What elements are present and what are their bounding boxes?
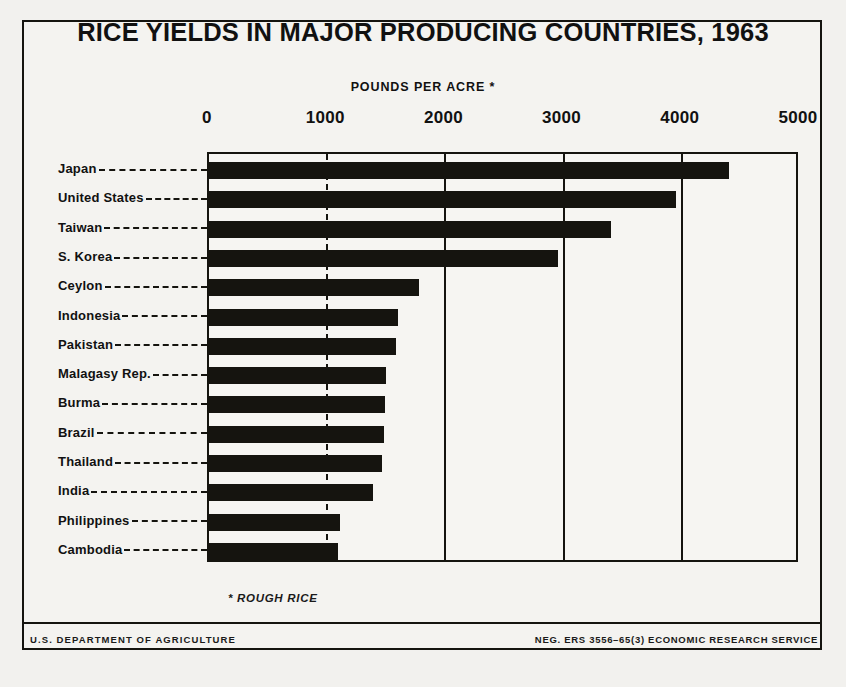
bar-indonesia [209, 309, 398, 326]
category-label-indonesia: Indonesia [58, 307, 207, 324]
bar-brazil [209, 426, 384, 443]
leader-dashes [91, 491, 207, 493]
category-name: Ceylon [58, 277, 103, 294]
units-caption: POUNDS PER ACRE * [0, 80, 846, 94]
footer-agency: U.S. DEPARTMENT OF AGRICULTURE [30, 634, 236, 645]
leader-dashes [115, 344, 207, 346]
bar-ceylon [209, 279, 419, 296]
category-label-india: India [58, 482, 207, 499]
x-tick-label-1000: 1000 [306, 108, 345, 128]
category-label-s-korea: S. Korea [58, 248, 207, 265]
bar-philippines [209, 514, 340, 531]
category-name: Taiwan [58, 219, 102, 236]
bar-taiwan [209, 221, 611, 238]
category-name: Philippines [58, 512, 130, 529]
category-label-thailand: Thailand [58, 453, 207, 470]
category-label-ceylon: Ceylon [58, 277, 207, 294]
category-name: Burma [58, 394, 100, 411]
page-title: RICE YIELDS IN MAJOR PRODUCING COUNTRIES… [0, 18, 846, 47]
leader-dashes [105, 286, 207, 288]
category-name: Thailand [58, 453, 113, 470]
leader-dashes [153, 374, 207, 376]
bar-united-states [209, 191, 676, 208]
category-name: Pakistan [58, 336, 113, 353]
bar-thailand [209, 455, 382, 472]
category-label-brazil: Brazil [58, 424, 207, 441]
category-name: Brazil [58, 424, 95, 441]
bar-malagasy-rep [209, 367, 386, 384]
category-label-burma: Burma [58, 394, 207, 411]
x-tick-label-2000: 2000 [424, 108, 463, 128]
leader-dashes [124, 549, 207, 551]
category-label-japan: Japan [58, 160, 207, 177]
leader-dashes [122, 315, 207, 317]
bar-india [209, 484, 373, 501]
leader-dashes [132, 520, 207, 522]
leader-dashes [104, 227, 207, 229]
category-label-pakistan: Pakistan [58, 336, 207, 353]
category-label-united-states: United States [58, 189, 207, 206]
category-name: Cambodia [58, 541, 122, 558]
leader-dashes [97, 432, 207, 434]
poster-canvas: RICE YIELDS IN MAJOR PRODUCING COUNTRIES… [0, 0, 846, 687]
footer-credit: NEG. ERS 3556–65(3) ECONOMIC RESEARCH SE… [535, 634, 818, 645]
bar-burma [209, 396, 385, 413]
footer-divider [24, 622, 820, 624]
category-name: S. Korea [58, 248, 112, 265]
plot-area [207, 152, 798, 562]
leader-dashes [114, 257, 207, 259]
leader-dashes [99, 169, 207, 171]
category-label-cambodia: Cambodia [58, 541, 207, 558]
category-name: Japan [58, 160, 97, 177]
x-tick-label-3000: 3000 [542, 108, 581, 128]
bar-japan [209, 162, 729, 179]
bar-cambodia [209, 543, 338, 560]
category-name: India [58, 482, 89, 499]
category-name: Indonesia [58, 307, 120, 324]
leader-dashes [115, 462, 207, 464]
category-name: Malagasy Rep. [58, 365, 151, 382]
category-label-malagasy-rep: Malagasy Rep. [58, 365, 207, 382]
x-tick-label-4000: 4000 [660, 108, 699, 128]
category-label-taiwan: Taiwan [58, 219, 207, 236]
leader-dashes [102, 403, 207, 405]
footnote: * ROUGH RICE [228, 592, 318, 604]
bar-s-korea [209, 250, 558, 267]
bar-pakistan [209, 338, 396, 355]
x-tick-label-0: 0 [202, 108, 212, 128]
bar-series [209, 154, 796, 560]
x-tick-label-5000: 5000 [778, 108, 817, 128]
leader-dashes [146, 198, 207, 200]
category-name: United States [58, 189, 144, 206]
category-label-philippines: Philippines [58, 512, 207, 529]
